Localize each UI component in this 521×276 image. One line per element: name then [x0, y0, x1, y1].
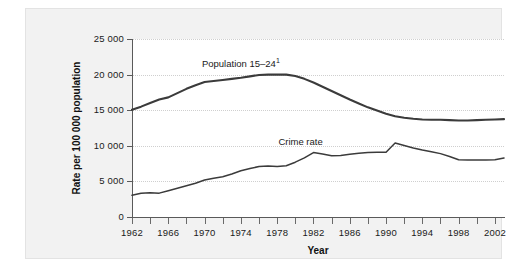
crime-rate-line [132, 143, 504, 195]
x-tick [295, 218, 296, 224]
x-tick [422, 218, 423, 224]
chart-figure: 05 00010 00015 00020 00025 000 196219661… [0, 0, 521, 276]
x-tick [404, 218, 405, 224]
population-line [132, 75, 504, 121]
x-tick-label: 1978 [257, 227, 297, 238]
x-tick [477, 218, 478, 224]
x-axis-title: Year [132, 245, 504, 256]
x-axis-line [132, 217, 505, 218]
x-tick [386, 218, 387, 224]
x-tick [259, 218, 260, 224]
y-axis-title: Rate per 100 000 population [70, 39, 84, 217]
x-tick [223, 218, 224, 224]
x-tick [440, 218, 441, 224]
chart-panel: 05 00010 00015 00020 00025 000 196219661… [25, 8, 502, 259]
x-tick-label: 2002 [475, 227, 515, 238]
series-label-population-text: Population 15–24 [202, 58, 276, 69]
x-tick [277, 218, 278, 224]
series-label-population: Population 15–241 [202, 57, 280, 69]
x-tick [332, 218, 333, 224]
series-label-crime-text: Crime rate [278, 136, 322, 147]
x-tick [459, 218, 460, 224]
x-tick-label: 1994 [402, 227, 442, 238]
x-tick [350, 218, 351, 224]
x-tick-label: 1990 [366, 227, 406, 238]
x-tick-label: 1970 [185, 227, 225, 238]
x-tick [186, 218, 187, 224]
x-tick-label: 1966 [148, 227, 188, 238]
x-tick [495, 218, 496, 224]
footnote-marker: 1 [276, 57, 280, 64]
x-tick [241, 218, 242, 224]
x-tick [132, 218, 133, 224]
x-tick [368, 218, 369, 224]
x-tick-label: 1962 [112, 227, 152, 238]
x-tick [168, 218, 169, 224]
x-tick-label: 1986 [330, 227, 370, 238]
x-tick-label: 1998 [439, 227, 479, 238]
x-tick [313, 218, 314, 224]
series-label-crime: Crime rate [278, 136, 322, 147]
x-tick-label: 1982 [293, 227, 333, 238]
x-tick [205, 218, 206, 224]
series-lines [132, 39, 504, 217]
x-tick-label: 1974 [221, 227, 261, 238]
x-tick [150, 218, 151, 224]
